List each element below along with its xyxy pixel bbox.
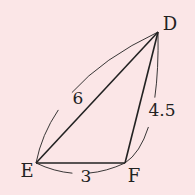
label-side-fd: 4.5 (148, 100, 175, 120)
vertex-label-e: E (20, 160, 33, 181)
vertex-label-d: D (163, 13, 177, 34)
label-side-ed: 6 (73, 88, 84, 108)
triangle-diagram: 6 4.5 3 D E F (0, 0, 195, 195)
vertex-label-f: F (128, 165, 141, 186)
label-side-ef: 3 (81, 166, 92, 186)
side-ed (36, 32, 158, 163)
